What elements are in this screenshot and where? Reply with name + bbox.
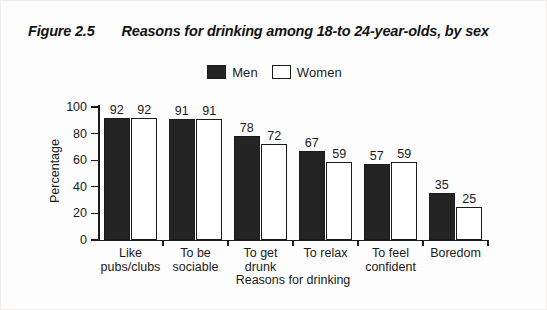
bar-men — [299, 151, 325, 240]
figure-frame: Figure 2.5Reasons for drinking among 18-… — [0, 0, 547, 310]
bar-value-label: 59 — [389, 148, 419, 161]
x-axis-tick — [162, 240, 164, 246]
y-axis-tick — [91, 213, 98, 214]
bar-women — [261, 144, 287, 240]
bar-men — [104, 118, 130, 240]
y-axis-tick — [91, 186, 98, 187]
bar-value-label: 59 — [324, 148, 354, 161]
x-axis-tick — [227, 240, 229, 246]
bar-women — [326, 162, 352, 240]
category-label: Boredom — [410, 247, 502, 261]
bar-women — [131, 118, 157, 240]
bar-value-label: 78 — [232, 122, 262, 135]
bar-value-label: 91 — [194, 105, 224, 118]
bar-women — [196, 119, 222, 240]
bar-women — [391, 162, 417, 240]
x-axis-tick — [422, 240, 424, 246]
bar-value-label: 57 — [362, 150, 392, 163]
y-axis-tick — [91, 106, 98, 107]
y-axis-title: Percentage — [48, 111, 62, 231]
category-label-line: Boredom — [410, 247, 502, 261]
x-axis-title: Reasons for drinking — [98, 273, 488, 287]
bar-value-label: 25 — [454, 193, 484, 206]
y-axis-line — [98, 105, 100, 241]
bar-value-label: 67 — [297, 137, 327, 150]
bar-value-label: 92 — [129, 104, 159, 117]
category-label-line: drunk — [215, 261, 307, 275]
category-label-line: confident — [345, 261, 437, 275]
x-axis-tick — [357, 240, 359, 246]
y-axis-tick-label-text: 0 — [51, 234, 87, 247]
bar-men — [429, 193, 455, 240]
x-axis-tick — [292, 240, 294, 246]
bar-men — [364, 164, 390, 240]
bar-value-label: 35 — [427, 179, 457, 192]
bar-value-label: 92 — [102, 104, 132, 117]
bar-value-label: 91 — [167, 105, 197, 118]
bar-women — [456, 207, 482, 240]
bar-value-label: 72 — [259, 130, 289, 143]
bar-men — [234, 136, 260, 240]
y-axis-tick — [91, 133, 98, 134]
bar-men — [169, 119, 195, 240]
x-axis-tick — [487, 240, 489, 246]
y-axis-tick — [91, 239, 98, 240]
y-axis-tick-label: 0 — [49, 234, 87, 246]
y-axis-tick — [91, 160, 98, 161]
bar-chart-plot: 020406080100 Percentage 9292919178726759… — [1, 1, 547, 310]
